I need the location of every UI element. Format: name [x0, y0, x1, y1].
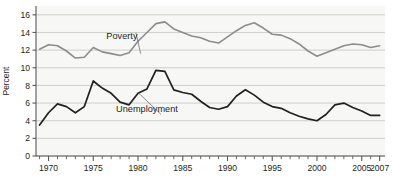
series-label-poverty: Poverty [106, 31, 138, 41]
y-tick-label: 0 [25, 151, 30, 161]
y-tick-label: 14 [20, 28, 30, 38]
line-chart: 197019751980198519901995200020052007 024… [0, 0, 406, 181]
x-tick-label: 1970 [39, 163, 58, 173]
x-tick-label: 2005 [352, 163, 371, 173]
x-tick-label: 2007 [370, 163, 389, 173]
x-tick-label: 1980 [128, 163, 147, 173]
series-label-unemployment: Unemployment [116, 104, 178, 114]
y-axis-title: Percent [1, 66, 11, 96]
y-tick-label: 4 [25, 116, 30, 126]
x-tick-label: 1975 [84, 163, 103, 173]
x-tick-label: 1990 [218, 163, 237, 173]
x-tick-label: 1995 [263, 163, 282, 173]
y-tick-label: 8 [25, 81, 30, 91]
y-tick-label: 2 [25, 133, 30, 143]
y-tick-label: 10 [20, 63, 30, 73]
chart-container: 197019751980198519901995200020052007 024… [0, 0, 406, 181]
y-tick-label: 6 [25, 98, 30, 108]
plot-area-background [36, 6, 385, 156]
x-tick-label: 2000 [307, 163, 326, 173]
x-tick-label: 1985 [173, 163, 192, 173]
y-tick-label: 12 [20, 45, 30, 55]
y-tick-label: 16 [20, 10, 30, 20]
